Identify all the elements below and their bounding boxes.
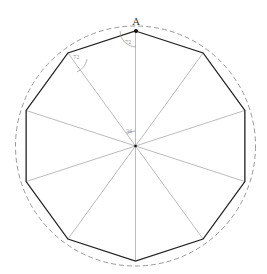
radius-line (68, 146, 136, 239)
radius-line (136, 146, 204, 239)
angle-arc-b (77, 59, 87, 72)
radius-line (136, 53, 204, 146)
angle-label-a: 72 (125, 39, 131, 45)
radius-line (136, 146, 245, 182)
radius-line (26, 146, 135, 182)
radius-line (136, 110, 245, 146)
angle-label-center: 36 (126, 128, 132, 134)
center-point (134, 145, 137, 148)
radius-line (26, 110, 135, 146)
vertex-a-point (134, 29, 138, 33)
decagon-diagram: A 72 72 36 (0, 0, 267, 274)
vertex-a-label: A (131, 16, 140, 27)
angle-label-b: 72 (73, 54, 79, 60)
